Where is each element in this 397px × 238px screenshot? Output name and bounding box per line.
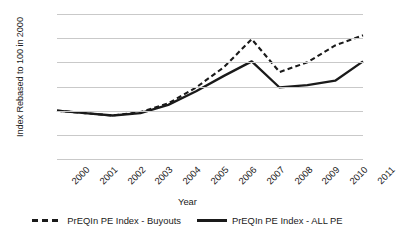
x-tick-label: 2006: [236, 164, 259, 187]
y-axis-title: Index Rebased to 100 in 2000: [15, 2, 25, 152]
solid-line-icon: [197, 219, 227, 222]
chart-legend: PrEQIn PE Index - BuyoutsPrEQIn PE Index…: [0, 215, 375, 226]
x-tick-label: 2009: [319, 164, 342, 187]
legend-item[interactable]: PrEQIn PE Index - ALL PE: [197, 215, 343, 226]
gridline: [57, 111, 363, 112]
x-axis-title: Year: [0, 196, 375, 207]
x-tick-label: 2011: [375, 164, 397, 186]
legend-item[interactable]: PrEQIn PE Index - Buyouts: [32, 215, 181, 226]
dashed-line-icon: [32, 219, 62, 222]
gridline: [57, 14, 363, 15]
gridline: [57, 159, 363, 160]
plot-area: [57, 14, 363, 159]
gridline: [57, 87, 363, 88]
x-tick-label: 2005: [208, 164, 231, 187]
gridline: [57, 38, 363, 39]
series-line: [57, 35, 363, 115]
x-tick-label: 2007: [264, 164, 287, 187]
x-tick-label: 2000: [69, 164, 92, 187]
x-tick-label: 2008: [292, 164, 315, 187]
x-tick-label: 2003: [153, 164, 176, 187]
series-line: [57, 61, 363, 115]
x-tick-label: 2010: [347, 164, 370, 187]
x-tick-label: 2004: [180, 164, 203, 187]
legend-label: PrEQIn PE Index - ALL PE: [232, 215, 343, 226]
x-tick-label: 2001: [97, 164, 120, 187]
gridline: [57, 135, 363, 136]
legend-label: PrEQIn PE Index - Buyouts: [67, 215, 181, 226]
x-tick-label: 2002: [125, 164, 148, 187]
gridline: [57, 62, 363, 63]
